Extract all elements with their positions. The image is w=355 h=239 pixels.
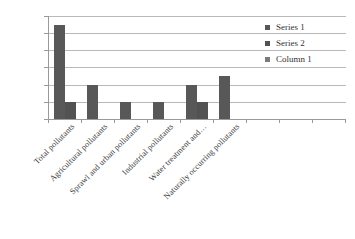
bar-series2-water-treatment — [197, 102, 208, 119]
bar-chart: 12 10 8 6 4 2 0 — [0, 0, 355, 239]
bar-series1-total-pollutants — [54, 25, 65, 119]
legend-item-series-1[interactable]: Series 1 — [265, 19, 335, 35]
legend-label-column-1: Column 1 — [276, 55, 312, 64]
legend-swatch-icon-column-1 — [265, 57, 270, 62]
legend-swatch-icon-series-1 — [265, 25, 270, 30]
legend-item-series-2[interactable]: Series 2 — [265, 35, 335, 51]
bar-series1-agricultural-pollutants — [87, 85, 98, 119]
bar-series1-water-treatment — [186, 85, 197, 119]
category-label-agricultural-pollutants: Agricultural pollutants — [48, 122, 109, 183]
category-label-water-treatment: Water treatment and… — [147, 122, 208, 183]
bar-series1-naturally-occurring-pollutants — [219, 76, 230, 119]
chart-legend: Series 1 Series 2 Column 1 — [265, 19, 335, 67]
legend-swatch-icon-series-2 — [265, 41, 270, 46]
legend-label-series-2: Series 2 — [276, 39, 305, 48]
bar-series1-sprawl-urban-pollutants — [120, 102, 131, 119]
x-axis-category-labels: Total pollutants Agricultural pollutants… — [48, 122, 346, 237]
bar-series1-industrial-pollutants — [153, 102, 164, 119]
legend-label-series-1: Series 1 — [276, 23, 305, 32]
x-axis-line — [48, 119, 346, 120]
legend-item-column-1[interactable]: Column 1 — [265, 51, 335, 67]
bar-series2-total-pollutants — [65, 102, 76, 119]
